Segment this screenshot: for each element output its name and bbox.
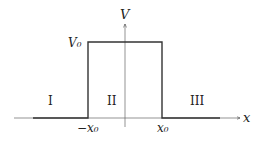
tick-left-label: −x₀ — [77, 121, 99, 135]
x-axis-label: x — [243, 110, 251, 125]
region-label-1: I — [48, 94, 53, 108]
potential-diagram: V x V₀ −x₀ x₀ I II III — [0, 0, 264, 142]
barrier-height-label: V₀ — [68, 36, 82, 50]
region-label-3: III — [190, 94, 204, 108]
tick-right-label: x₀ — [157, 121, 169, 135]
region-label-2: II — [107, 94, 117, 108]
v-axis-label: V — [120, 7, 131, 22]
